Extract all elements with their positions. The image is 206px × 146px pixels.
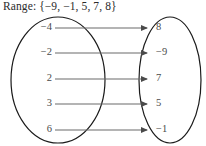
domain-item-2: −2	[26, 46, 52, 57]
domain-item-1: −4	[26, 21, 52, 32]
domain-item-3: 2	[26, 72, 52, 83]
domain-item-4: 3	[26, 97, 52, 108]
range-item-2: −9	[156, 46, 182, 57]
range-item-4: 5	[156, 97, 182, 108]
range-item-1: 8	[156, 21, 182, 32]
range-item-3: 7	[156, 72, 182, 83]
mapping-diagram-figure: Range: {−9, −1, 5, 7, 8} −4 −2 2 3 6 8 −…	[0, 0, 206, 146]
domain-item-5: 6	[26, 123, 52, 134]
range-item-5: −1	[156, 123, 182, 134]
